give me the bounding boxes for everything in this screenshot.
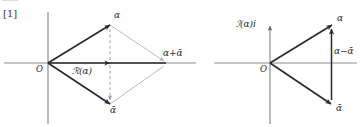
right-vector-to-alpha-bar — [270, 63, 331, 104]
right-alpha-label: α — [337, 14, 343, 23]
left-alpha-label: α — [114, 11, 120, 20]
left-edge-alphabar-to-sum — [110, 66, 164, 104]
left-sum-label: α+ᾱ — [163, 49, 183, 58]
left-edge-alpha-to-sum — [110, 25, 164, 61]
right-difference-label: α−ᾱ — [334, 47, 354, 56]
right-vector-to-alpha — [270, 25, 332, 63]
right-alpha-bar-label: ᾱ — [336, 104, 342, 113]
right-imaginary-axis-label: ℐ(α)i — [236, 20, 256, 29]
figure-container: [1] — [0, 0, 361, 127]
left-real-part-label: ℛ(α) — [72, 67, 92, 76]
figure-vector-graphics — [0, 0, 361, 127]
left-alpha-bar-label: ᾱ — [110, 106, 116, 115]
left-vector-to-alpha — [48, 25, 110, 63]
right-origin-label: O — [260, 65, 267, 74]
left-origin-label: O — [36, 65, 43, 74]
left-diagram-group — [4, 12, 196, 124]
